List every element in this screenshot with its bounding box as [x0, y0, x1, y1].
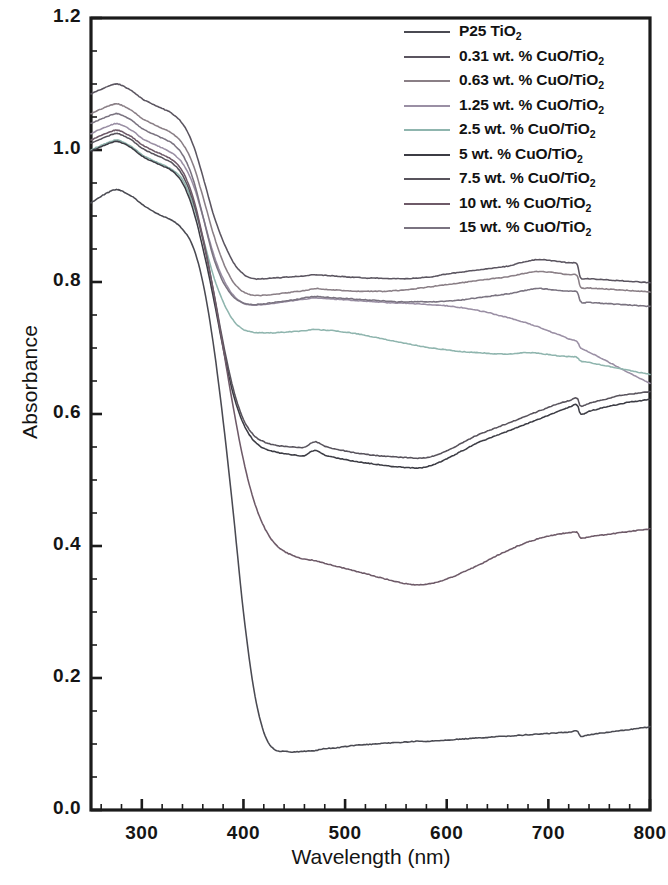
x-tick-label: 700 [513, 822, 583, 844]
x-tick-label: 300 [107, 822, 177, 844]
legend-line-icon [404, 105, 450, 107]
legend-line-icon [404, 31, 450, 33]
legend-line-icon [404, 129, 450, 131]
legend-label: P25 TiO2 [459, 22, 522, 42]
legend-entry: 15 wt. % CuO/TiO2 [404, 216, 656, 241]
legend-entry: 10 wt. % CuO/TiO2 [404, 192, 656, 217]
legend-line-icon [404, 178, 450, 180]
y-tick-label: 0.0 [19, 797, 81, 819]
legend-entry: P25 TiO2 [404, 20, 656, 45]
legend-label: 2.5 wt. % CuO/TiO2 [459, 120, 595, 140]
legend-line-icon [404, 56, 450, 58]
legend-label: 0.31 wt. % CuO/TiO2 [459, 47, 604, 67]
absorbance-spectra-figure: 0.00.20.40.60.81.01.2 300400500600700800… [0, 0, 668, 885]
legend-label: 7.5 wt. % CuO/TiO2 [459, 169, 595, 189]
legend-line-icon [404, 203, 450, 205]
legend-line-icon [404, 80, 450, 82]
y-axis-label: Absorbance [18, 292, 42, 472]
legend-label: 15 wt. % CuO/TiO2 [459, 218, 591, 238]
legend-entry: 0.63 wt. % CuO/TiO2 [404, 69, 656, 94]
chart-legend: P25 TiO20.31 wt. % CuO/TiO20.63 wt. % Cu… [404, 20, 656, 241]
legend-entry: 5 wt. % CuO/TiO2 [404, 143, 656, 168]
x-tick-label: 600 [412, 822, 482, 844]
x-tick-label: 400 [208, 822, 278, 844]
y-tick-label: 1.0 [19, 137, 81, 159]
x-tick-label: 800 [615, 822, 668, 844]
legend-label: 10 wt. % CuO/TiO2 [459, 194, 591, 214]
y-tick-label: 0.2 [19, 665, 81, 687]
legend-label: 5 wt. % CuO/TiO2 [459, 145, 583, 165]
legend-entry: 0.31 wt. % CuO/TiO2 [404, 45, 656, 70]
y-tick-label: 1.2 [19, 5, 81, 27]
legend-entry: 2.5 wt. % CuO/TiO2 [404, 118, 656, 143]
legend-label: 1.25 wt. % CuO/TiO2 [459, 96, 604, 116]
legend-entry: 7.5 wt. % CuO/TiO2 [404, 167, 656, 192]
y-tick-label: 0.4 [19, 533, 81, 555]
legend-line-icon [404, 227, 450, 229]
y-tick-label: 0.8 [19, 269, 81, 291]
legend-line-icon [404, 154, 450, 156]
legend-label: 0.63 wt. % CuO/TiO2 [459, 71, 604, 91]
legend-entry: 1.25 wt. % CuO/TiO2 [404, 94, 656, 119]
x-axis-label: Wavelength (nm) [91, 845, 651, 869]
x-tick-label: 500 [310, 822, 380, 844]
